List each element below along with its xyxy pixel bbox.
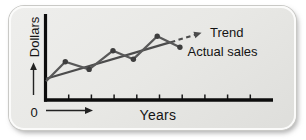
data-point-marker [86, 67, 91, 72]
data-point-marker [177, 45, 182, 50]
y-direction-arrow-icon [30, 63, 37, 71]
actual-sales-series-label: Actual sales [188, 44, 259, 59]
x-direction-arrow-icon [85, 107, 93, 114]
y-axis-label: Dollars [27, 16, 42, 57]
data-point-marker [63, 59, 68, 64]
origin-zero-label: 0 [30, 105, 37, 120]
trend-series-label: Trend [210, 25, 243, 40]
sales-trend-chart: Dollars 0 Years Trend Actual sales [0, 0, 306, 140]
x-axis-label: Years [140, 107, 177, 123]
data-point-marker [110, 48, 115, 53]
data-point-marker [155, 34, 160, 39]
data-point-marker [131, 57, 136, 62]
page-background: Dollars 0 Years Trend Actual sales [0, 0, 306, 140]
trend-arrowhead-icon [193, 32, 201, 38]
trend-forecast-dashed-line [171, 35, 196, 43]
